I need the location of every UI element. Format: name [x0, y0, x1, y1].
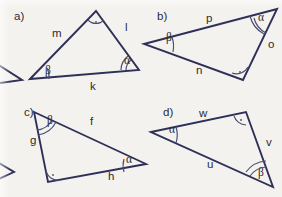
- side-label-b-n: n: [196, 64, 202, 76]
- side-label-a-k: k: [90, 80, 96, 92]
- triangle-b-right-angle-dot: [239, 71, 241, 73]
- triangle-b-angle-beta-arc: [172, 37, 174, 52]
- triangle-d-angle-alpha-arc: [176, 127, 177, 143]
- side-label-b-o: o: [268, 38, 274, 50]
- triangle-c-right-angle-dot: [52, 174, 54, 176]
- side-label-c-f: f: [90, 115, 94, 127]
- triangle-a-right-angle-dot: [95, 21, 97, 23]
- side-label-c-g: g: [30, 134, 36, 146]
- angle-label-d-alpha: α: [169, 123, 175, 135]
- partial-triangle-edge-left-top: [0, 62, 22, 84]
- side-label-a-m: m: [52, 27, 62, 39]
- side-label-d-v: v: [266, 136, 272, 148]
- triangle-d-right-angle-dot: [240, 119, 242, 121]
- panel-label-d: d): [163, 106, 173, 118]
- angle-label-c-alpha: α: [126, 153, 132, 165]
- angle-label-d-beta: β: [258, 166, 264, 179]
- angle-label-c-beta: β: [47, 114, 53, 127]
- panel-label-b: b): [157, 10, 167, 22]
- angle-label-b-beta: β: [166, 31, 172, 44]
- figure-page: a) b) c) d) m l k p o n f g h w v u β α …: [0, 0, 282, 197]
- side-label-d-u: u: [207, 158, 213, 170]
- side-label-d-w: w: [198, 107, 208, 119]
- panel-label-a: a): [14, 10, 24, 22]
- side-label-a-l: l: [125, 21, 128, 33]
- triangle-d-right-angle-marker: [234, 116, 246, 125]
- angle-label-a-alpha: α: [124, 54, 130, 66]
- side-label-b-p: p: [206, 12, 212, 24]
- side-label-c-h: h: [108, 170, 114, 182]
- angle-label-a-beta: β: [45, 64, 51, 77]
- triangle-c-angle-alpha-arc: [123, 159, 124, 172]
- triangles-figure: a) b) c) d) m l k p o n f g h w v u β α …: [0, 0, 282, 197]
- angle-label-b-alpha: α: [258, 11, 264, 23]
- partial-triangle-edge-left-bottom: [0, 160, 14, 182]
- panel-label-c: c): [24, 106, 34, 118]
